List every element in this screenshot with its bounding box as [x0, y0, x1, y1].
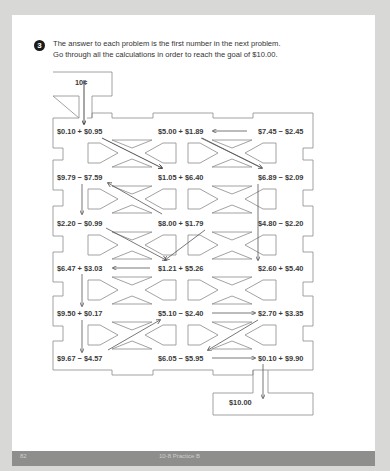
maze-cell: $2.20 − $0.99 — [57, 219, 102, 228]
maze-diagram — [0, 0, 390, 471]
section-label: 10-8 Practice B — [159, 453, 200, 459]
maze-cell: $8.00 + $1.79 — [158, 219, 203, 228]
maze-cell: $0.10 + $9.90 — [258, 354, 303, 363]
maze-cell: $5.10 − $2.40 — [158, 309, 203, 318]
maze-cell: $1.05 + $6.40 — [158, 173, 203, 182]
page-footer-bar: 82 10-8 Practice B — [12, 451, 375, 466]
maze-cell: $5.00 + $1.89 — [158, 127, 203, 136]
maze-cell: $9.79 − $7.59 — [57, 173, 102, 182]
page-number: 82 — [20, 453, 27, 459]
maze-cell: $0.10 + $0.95 — [57, 127, 102, 136]
maze-goal: $10.00 — [229, 398, 252, 407]
maze-cell: $6.89 − $2.09 — [258, 173, 303, 182]
maze-cell: $7.45 − $2.45 — [258, 127, 303, 136]
maze-cell: $4.80 − $2.20 — [258, 219, 303, 228]
maze-cell: $1.21 + $5.26 — [158, 264, 203, 273]
maze-cell: $9.67 − $4.57 — [57, 354, 102, 363]
maze-cell: $6.47 + $3.03 — [57, 264, 102, 273]
maze-cell: $2.60 + $5.40 — [258, 264, 303, 273]
maze-cell: $9.50 + $0.17 — [57, 309, 102, 318]
maze-cell: $2.70 + $3.35 — [258, 309, 303, 318]
maze-start: 10¢ — [75, 78, 87, 87]
maze-cell: $6.05 − $5.95 — [158, 354, 203, 363]
